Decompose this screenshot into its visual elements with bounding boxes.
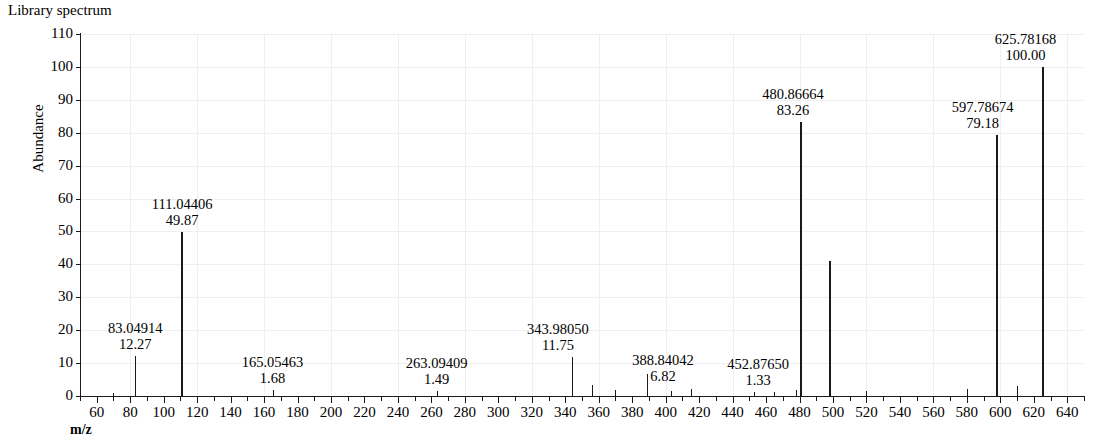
- x-axis-tick-major: [498, 397, 499, 403]
- x-axis-tick-minor: [448, 397, 449, 401]
- x-axis-tick-label: 320: [521, 404, 544, 421]
- x-axis-tick-minor: [783, 397, 784, 401]
- x-axis-tick-minor: [816, 397, 817, 401]
- x-axis-tick-label: 120: [186, 404, 209, 421]
- y-axis-tick-label: 20: [58, 322, 73, 337]
- x-axis-tick-minor: [1084, 397, 1085, 401]
- x-axis-tick-major: [465, 397, 466, 403]
- x-axis-tick-label: 340: [554, 404, 577, 421]
- x-axis-tick-minor: [917, 397, 918, 401]
- x-axis-tick-major: [264, 397, 265, 403]
- y-axis-tick-label: 70: [58, 158, 73, 173]
- x-axis-tick-label: 300: [487, 404, 510, 421]
- y-axis-tick-label: 90: [58, 92, 73, 107]
- x-axis-tick-label: 540: [889, 404, 912, 421]
- x-axis: m/z 608010012014016018020022024026028030…: [0, 396, 1095, 441]
- x-axis-tick-major: [699, 397, 700, 403]
- x-axis-title: m/z: [70, 422, 92, 438]
- x-axis-tick-major: [398, 397, 399, 403]
- x-axis-tick-minor: [515, 397, 516, 401]
- x-axis-tick-major: [1034, 397, 1035, 403]
- x-axis-tick-major: [331, 397, 332, 403]
- peak-abundance-label: 6.82: [632, 368, 694, 384]
- peak-mz-label: 597.78674: [952, 99, 1014, 115]
- y-axis-tick: [76, 199, 81, 200]
- x-axis-tick-label: 180: [286, 404, 309, 421]
- peak-abundance-label: 49.87: [152, 212, 213, 228]
- y-axis-tick: [76, 330, 81, 331]
- y-axis: 0102030405060708090100110: [0, 0, 81, 441]
- x-axis-tick-label: 600: [989, 404, 1012, 421]
- x-axis-tick-major: [866, 397, 867, 403]
- peak-mz-label: 388.84042: [632, 352, 694, 368]
- x-axis-tick-major: [733, 397, 734, 403]
- y-axis-tick: [76, 100, 81, 101]
- x-axis-tick-label: 500: [822, 404, 845, 421]
- x-axis-tick-major: [97, 397, 98, 403]
- x-axis-tick-minor: [482, 397, 483, 401]
- peak-abundance-label: 1.33: [727, 372, 789, 388]
- y-axis-tick: [76, 67, 81, 68]
- x-axis-tick-minor: [415, 397, 416, 401]
- x-axis-tick-minor: [850, 397, 851, 401]
- x-axis-tick-label: 360: [587, 404, 610, 421]
- x-axis-tick-label: 420: [688, 404, 711, 421]
- x-axis-tick-label: 460: [755, 404, 778, 421]
- x-axis-tick-major: [666, 397, 667, 403]
- x-axis-tick-major: [431, 397, 432, 403]
- y-axis-tick-label: 40: [58, 256, 73, 271]
- peak-abundance-label: 1.68: [242, 370, 304, 386]
- x-axis-tick-label: 80: [123, 404, 138, 421]
- y-axis-tick-label: 110: [51, 26, 73, 41]
- peak-annotation: 452.876501.33: [727, 356, 789, 388]
- x-axis-tick-minor: [214, 397, 215, 401]
- x-axis-tick-label: 520: [855, 404, 878, 421]
- x-axis-tick-label: 60: [89, 404, 104, 421]
- peak-mz-label: 83.04914: [108, 320, 162, 336]
- x-axis-tick-minor: [1051, 397, 1052, 401]
- x-axis-tick-major: [231, 397, 232, 403]
- peak-annotation: 388.840426.82: [632, 352, 694, 384]
- x-axis-tick-major: [164, 397, 165, 403]
- x-axis-tick-label: 160: [253, 404, 276, 421]
- x-axis-tick-label: 220: [353, 404, 376, 421]
- x-axis-tick-minor: [984, 397, 985, 401]
- x-axis-tick-major: [599, 397, 600, 403]
- y-axis-tick-label: 60: [58, 191, 73, 206]
- x-axis-tick-major: [364, 397, 365, 403]
- x-axis-tick-major: [565, 397, 566, 403]
- x-axis-tick-major: [933, 397, 934, 403]
- x-axis-tick-major: [532, 397, 533, 403]
- x-axis-tick-minor: [649, 397, 650, 401]
- x-axis-tick-minor: [348, 397, 349, 401]
- x-axis-tick-minor: [682, 397, 683, 401]
- x-axis-tick-major: [766, 397, 767, 403]
- peak-abundance-label: 11.75: [527, 337, 589, 353]
- peak-mz-label: 452.87650: [727, 356, 789, 372]
- peak-mz-label: 165.05463: [242, 354, 304, 370]
- x-axis-tick-minor: [749, 397, 750, 401]
- x-axis-tick-label: 240: [387, 404, 410, 421]
- peak-mz-label: 625.78168: [995, 31, 1057, 47]
- y-axis-tick-label: 80: [58, 125, 73, 140]
- peak-mz-label: 480.86664: [762, 86, 824, 102]
- x-axis-tick-major: [1000, 397, 1001, 403]
- x-axis-tick-label: 280: [454, 404, 477, 421]
- x-axis-tick-minor: [716, 397, 717, 401]
- x-axis-tick-minor: [281, 397, 282, 401]
- peak-mz-label: 111.04406: [152, 196, 213, 212]
- x-axis-tick-major: [833, 397, 834, 403]
- x-axis-tick-minor: [247, 397, 248, 401]
- peak-label-layer: 83.0491412.27111.0440649.87165.054631.68…: [80, 34, 1084, 396]
- peak-mz-label: 343.98050: [527, 321, 589, 337]
- x-axis-tick-major: [197, 397, 198, 403]
- x-axis-tick-minor: [381, 397, 382, 401]
- x-axis-tick-minor: [180, 397, 181, 401]
- x-axis-tick-label: 100: [152, 404, 175, 421]
- y-axis-tick: [76, 133, 81, 134]
- x-axis-tick-minor: [1017, 397, 1018, 401]
- x-axis-tick-label: 580: [956, 404, 979, 421]
- y-axis-tick: [76, 166, 81, 167]
- x-axis-tick-label: 640: [1056, 404, 1079, 421]
- peak-annotation: 263.094091.49: [406, 355, 468, 387]
